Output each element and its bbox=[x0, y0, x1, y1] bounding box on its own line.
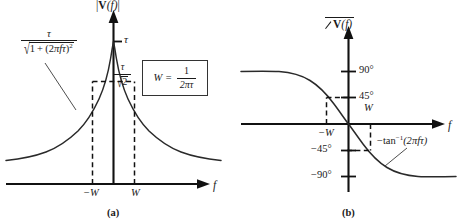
panel-b-curve-label-prefix: −tan bbox=[377, 135, 396, 146]
panel-a-formula-numerator: τ bbox=[21, 28, 77, 41]
panel-a-x-axis-label: f bbox=[213, 180, 216, 192]
panel-b-x-axis-label: f bbox=[448, 120, 451, 132]
angle-icon bbox=[326, 18, 333, 29]
panel-b-ytick-45: 45° bbox=[359, 91, 374, 102]
panel-a-w-definition-denominator: 2πτ bbox=[177, 79, 197, 91]
panel-a-w-definition-box: W = 1 2πτ bbox=[142, 60, 208, 96]
panel-a-half-power-numerator: τ bbox=[114, 62, 131, 75]
panel-a-y-axis bbox=[109, 10, 119, 184]
panel-b-xtick-w: W bbox=[364, 103, 373, 114]
panel-b-ytick-minus-90: −90° bbox=[311, 170, 332, 181]
panel-b-y-axis bbox=[344, 26, 354, 192]
panel-a-xtick-minus-w: −W bbox=[83, 188, 99, 199]
panel-b-phase-plot: V(f) f 90° 45° −45° −90° −W W −tan−1(2πf… bbox=[237, 0, 475, 224]
panel-b-curve-label-leader bbox=[385, 148, 407, 166]
panel-b-curve-label: −tan−1(2πfτ) bbox=[377, 136, 427, 147]
panel-a-caption: (a) bbox=[107, 207, 119, 218]
panel-a-curve-formula: τ √1 + (2πfτ)2 bbox=[21, 28, 77, 54]
panel-a-magnitude-plot: |V(f)| f τ τ √1 + (2πfτ)2 τ √2 W = 1 bbox=[0, 0, 237, 224]
panel-a-y-axis-title: |V(f)| bbox=[96, 0, 120, 12]
panel-a-formula-leader bbox=[45, 63, 76, 110]
panel-a-w-definition-lhs: W = bbox=[154, 71, 172, 82]
panel-b-x-axis bbox=[241, 119, 445, 129]
figure-root: |V(f)| f τ τ √1 + (2πfτ)2 τ √2 W = 1 bbox=[0, 0, 475, 224]
panel-b-xtick-minus-w: −W bbox=[318, 128, 334, 139]
panel-a-half-power-label: τ √2 bbox=[114, 62, 131, 87]
panel-a-peak-label: τ bbox=[124, 34, 128, 45]
panel-a-w-definition-numerator: 1 bbox=[177, 66, 197, 79]
panel-b-caption: (b) bbox=[342, 207, 355, 218]
panel-b-ytick-minus-45: −45° bbox=[311, 144, 332, 155]
panel-b-ytick-90: 90° bbox=[359, 65, 374, 76]
panel-b-curve-label-argument: (2πfτ) bbox=[403, 135, 427, 146]
panel-a-xtick-w: W bbox=[131, 188, 140, 199]
panel-b-svg bbox=[237, 0, 475, 224]
panel-a-half-power-denominator: √2 bbox=[114, 75, 131, 88]
panel-a-formula-denominator: √1 + (2πfτ)2 bbox=[21, 41, 77, 54]
panel-a-x-axis bbox=[6, 179, 210, 189]
panel-b-y-axis-title: V(f) bbox=[325, 17, 354, 31]
